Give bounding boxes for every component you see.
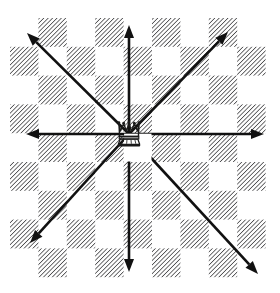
queen-square-backing — [124, 134, 151, 162]
queen-piece — [0, 0, 280, 293]
queen-moves-diagram — [0, 0, 280, 293]
